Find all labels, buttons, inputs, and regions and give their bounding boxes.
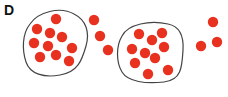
cluster-2-enclosed-dot <box>130 58 140 68</box>
cluster-1-outside-dot <box>89 15 99 25</box>
cluster-1-outside-dot <box>95 31 105 41</box>
cluster-1-enclosed-dot <box>32 24 42 34</box>
cluster-2-enclosed-dot <box>143 69 153 79</box>
cluster-1-enclosed-dot <box>43 41 53 51</box>
cluster-1-enclosed-dot <box>67 43 77 53</box>
cluster-1-enclosed-dot <box>29 38 39 48</box>
cluster-1-enclosed-dot <box>51 14 61 24</box>
cluster-2-enclosed-dot <box>134 29 144 39</box>
cluster-1-enclosed-dot <box>64 56 74 66</box>
cluster-2-outside-dot <box>208 17 218 27</box>
cluster-1-outside-dot <box>103 45 113 55</box>
cluster-2-enclosed-dot <box>140 48 150 58</box>
cluster-2-enclosed-dot <box>147 35 157 45</box>
cluster-2-outside-dot <box>212 37 222 47</box>
cluster-1-enclosed-dot <box>45 28 55 38</box>
cluster-1-enclosed-dot <box>35 52 45 62</box>
cluster-2-enclosed-dot <box>157 28 167 38</box>
cluster-2-enclosed-dot <box>159 42 169 52</box>
cluster-1-enclosed-dot <box>51 50 61 60</box>
cluster-2-outside-dot <box>196 41 206 51</box>
cluster-2-enclosed-dot <box>127 44 137 54</box>
cluster-2-enclosed-dot <box>150 53 160 63</box>
cell-diagram <box>0 0 228 97</box>
cluster-1-enclosed-dot <box>57 32 67 42</box>
cluster-2-enclosed-dot <box>163 65 173 75</box>
dots-layer <box>29 14 222 79</box>
